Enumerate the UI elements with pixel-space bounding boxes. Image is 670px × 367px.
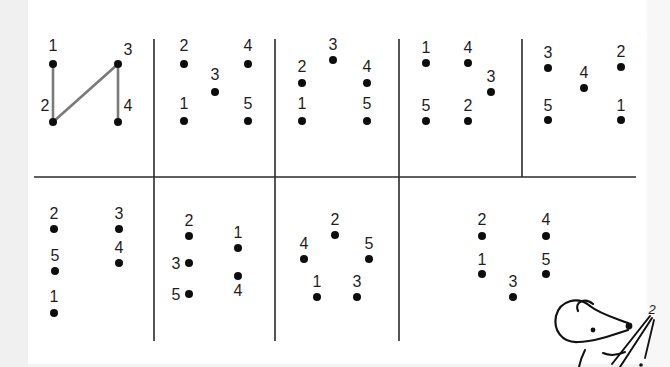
dot-point[interactable] xyxy=(478,232,486,240)
dot-point[interactable] xyxy=(363,79,371,87)
dot-point[interactable] xyxy=(180,60,188,68)
dot-point[interactable] xyxy=(617,116,625,124)
dot-point[interactable] xyxy=(298,117,306,125)
dot-point[interactable] xyxy=(51,267,59,275)
dot-point[interactable] xyxy=(244,117,252,125)
dot-number-label: 2 xyxy=(464,97,473,114)
dot-point[interactable] xyxy=(50,225,58,233)
dot-number-label: 2 xyxy=(617,43,626,60)
dot-point[interactable] xyxy=(234,272,242,280)
dot-number-label: 5 xyxy=(544,97,553,114)
dot-point[interactable] xyxy=(422,117,430,125)
panel-top-3: 32415 xyxy=(298,36,372,125)
panel-grid-lines xyxy=(34,39,636,341)
dot-point[interactable] xyxy=(313,293,321,301)
pencil-number: 2 xyxy=(647,302,656,317)
dot-number-label: 2 xyxy=(298,58,307,75)
dot-point[interactable] xyxy=(50,309,58,317)
dot-point[interactable] xyxy=(185,290,193,298)
dot-number-label: 5 xyxy=(51,247,60,264)
dot-number-label: 4 xyxy=(464,39,473,56)
dot-number-label: 3 xyxy=(544,44,553,61)
dot-point[interactable] xyxy=(115,259,123,267)
dot-point[interactable] xyxy=(542,232,550,240)
dot-number-label: 4 xyxy=(363,58,372,75)
dot-number-label: 4 xyxy=(234,282,243,299)
dot-number-label: 1 xyxy=(50,288,59,305)
panel-top-1: 1324 xyxy=(41,37,133,126)
dot-point[interactable] xyxy=(422,59,430,67)
panel-bottom-1: 23451 xyxy=(50,205,124,317)
dot-point[interactable] xyxy=(365,255,373,263)
dot-point[interactable] xyxy=(617,63,625,71)
dot-point[interactable] xyxy=(114,60,122,68)
dot-number-label: 1 xyxy=(298,95,307,112)
dot-point[interactable] xyxy=(180,117,188,125)
dot-point[interactable] xyxy=(300,255,308,263)
dot-number-label: 5 xyxy=(172,286,181,303)
dot-point[interactable] xyxy=(464,59,472,67)
dot-point[interactable] xyxy=(478,270,486,278)
dot-number-label: 5 xyxy=(363,95,372,112)
panel-bottom-3: 24513 xyxy=(300,211,374,301)
dot-point[interactable] xyxy=(509,293,517,301)
dot-number-label: 2 xyxy=(185,212,194,229)
dot-point[interactable] xyxy=(185,232,193,240)
dot-number-label: 2 xyxy=(180,37,189,54)
dot-number-label: 2 xyxy=(50,205,59,222)
dot-point[interactable] xyxy=(331,231,339,239)
dot-point[interactable] xyxy=(544,116,552,124)
dot-number-label: 3 xyxy=(115,205,124,222)
dot-number-label: 1 xyxy=(49,37,58,54)
dot-point[interactable] xyxy=(49,60,57,68)
dot-point[interactable] xyxy=(114,118,122,126)
dot-point[interactable] xyxy=(329,56,337,64)
dot-point[interactable] xyxy=(244,60,252,68)
panel-top-4: 14352 xyxy=(422,39,496,125)
dot-number-label: 2 xyxy=(478,211,487,228)
dot-number-label: 1 xyxy=(422,39,431,56)
panel-bottom-2: 21345 xyxy=(172,212,243,303)
dot-number-label: 2 xyxy=(331,211,340,228)
dot-number-label: 4 xyxy=(580,64,589,81)
example-connector-line xyxy=(53,64,118,122)
dot-number-label: 1 xyxy=(180,95,189,112)
dot-point[interactable] xyxy=(464,117,472,125)
dot-number-label: 3 xyxy=(509,273,518,290)
panel-bottom-4: 24153 xyxy=(478,211,551,301)
dot-number-label: 3 xyxy=(124,41,133,58)
dot-number-label: 5 xyxy=(244,95,253,112)
dot-point[interactable] xyxy=(353,293,361,301)
dot-number-label: 4 xyxy=(300,235,309,252)
panel-top-2: 24315 xyxy=(180,37,253,125)
dot-number-label: 4 xyxy=(124,97,133,114)
dot-point[interactable] xyxy=(49,118,57,126)
dot-number-label: 3 xyxy=(329,36,338,53)
dot-point[interactable] xyxy=(487,88,495,96)
dot-number-label: 1 xyxy=(313,273,322,290)
dot-number-label: 2 xyxy=(41,97,50,114)
dot-number-label: 1 xyxy=(617,97,626,114)
mouse-mascot-icon: 2 xyxy=(555,301,656,367)
dot-number-label: 3 xyxy=(353,273,362,290)
dot-point[interactable] xyxy=(234,244,242,252)
dot-number-label: 4 xyxy=(244,37,253,54)
dot-point[interactable] xyxy=(185,259,193,267)
dot-number-label: 4 xyxy=(115,239,124,256)
dot-point[interactable] xyxy=(544,64,552,72)
dot-point[interactable] xyxy=(298,79,306,87)
dot-point[interactable] xyxy=(580,84,588,92)
dot-point[interactable] xyxy=(542,270,550,278)
dot-point[interactable] xyxy=(115,225,123,233)
dot-number-label: 3 xyxy=(487,68,496,85)
dot-number-label: 1 xyxy=(478,251,487,268)
dot-number-label: 3 xyxy=(172,255,181,272)
dot-number-label: 5 xyxy=(365,235,374,252)
dot-number-label: 1 xyxy=(234,224,243,241)
dot-number-label: 5 xyxy=(422,97,431,114)
dot-point[interactable] xyxy=(363,117,371,125)
panel-top-5: 32451 xyxy=(544,43,626,124)
dot-to-dot-worksheet: 1324243153241514352324512345121345245132… xyxy=(0,0,670,367)
dot-number-label: 3 xyxy=(211,66,220,83)
dot-point[interactable] xyxy=(211,88,219,96)
